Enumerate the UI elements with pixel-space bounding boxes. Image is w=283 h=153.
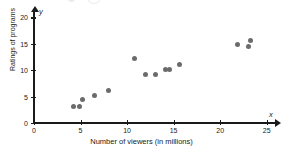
y-tick-mark xyxy=(31,123,36,124)
data-point xyxy=(167,67,172,72)
data-point xyxy=(106,88,111,93)
x-tick-mark xyxy=(127,120,128,125)
y-tick-mark xyxy=(31,17,36,18)
y-tick-label: 5 xyxy=(24,93,28,100)
y-tick-label: 0 xyxy=(24,120,28,127)
y-axis-title: Ratings of programs xyxy=(9,0,16,90)
x-tick-mark xyxy=(81,120,82,125)
y-tick-mark xyxy=(31,70,36,71)
y-tick-mark xyxy=(31,97,36,98)
data-point xyxy=(77,104,82,109)
data-point xyxy=(143,72,148,77)
x-tick-label: 10 xyxy=(123,127,131,134)
x-tick-label: 0 xyxy=(32,127,36,134)
x-axis-variable-label: x xyxy=(269,110,273,119)
x-tick-label: 5 xyxy=(79,127,83,134)
x-axis-title: Number of viewers (in millions) xyxy=(0,137,283,146)
y-axis-variable-label: y xyxy=(39,7,43,16)
data-point xyxy=(92,93,97,98)
y-tick-label: 20 xyxy=(20,14,28,21)
data-point xyxy=(80,97,85,102)
data-point xyxy=(153,72,158,77)
y-tick-label: 10 xyxy=(20,67,28,74)
data-point xyxy=(132,56,137,61)
x-axis-line xyxy=(33,122,276,124)
y-axis-line xyxy=(33,12,35,123)
data-point xyxy=(246,44,251,49)
x-tick-mark xyxy=(267,120,268,125)
data-point xyxy=(177,62,182,67)
plot-area: x y 0510152025 05101520 Number of viewer… xyxy=(0,0,283,153)
x-tick-label: 25 xyxy=(263,127,271,134)
data-point xyxy=(71,104,76,109)
data-point xyxy=(235,42,240,47)
y-tick-label: 15 xyxy=(20,40,28,47)
x-tick-label: 15 xyxy=(170,127,178,134)
x-tick-mark xyxy=(220,120,221,125)
scatter-plot-screenshot: x y 0510152025 05101520 Number of viewer… xyxy=(0,0,283,153)
x-tick-label: 20 xyxy=(216,127,224,134)
y-tick-mark xyxy=(31,44,36,45)
x-tick-mark xyxy=(174,120,175,125)
y-axis-arrow-icon xyxy=(31,6,39,12)
data-point xyxy=(248,38,253,43)
x-axis-arrow-icon xyxy=(275,119,281,127)
